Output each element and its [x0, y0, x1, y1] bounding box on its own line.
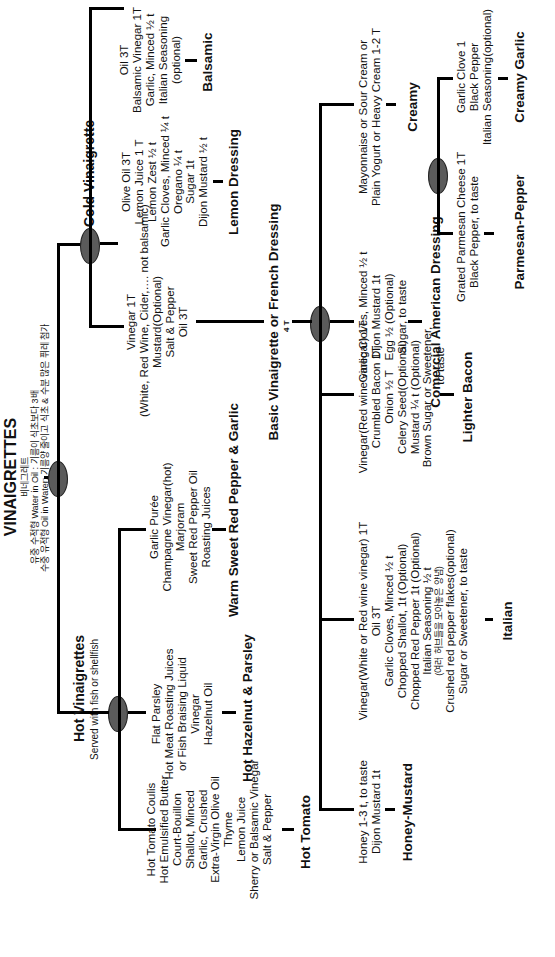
basic-vinaigrette-amount: 4 T [283, 320, 292, 332]
ingredient: Champagne Vinegar(hot) [161, 457, 174, 597]
ingredient: Black Pepper [468, 7, 481, 147]
ingredient: (White, Red Wine, Cider,…. not balsamic) [138, 227, 151, 417]
connector [212, 529, 226, 532]
ingredient: Crushed red pepper flakes(optional) [444, 501, 457, 741]
ingredient: Mustard(Optional) [151, 227, 164, 417]
connector [118, 529, 146, 532]
creamy-label: Creamy [405, 72, 420, 142]
ingredient: Egg ½ (Optional) [383, 247, 396, 387]
connector-root-spine [57, 244, 60, 714]
ingredient: Marjoram [174, 457, 187, 597]
ingredient: Lemon Juice 1 T [133, 117, 146, 247]
connector [213, 181, 223, 184]
ingredient: Salt & Pepper [164, 227, 177, 417]
connector [319, 619, 354, 622]
ingredient: Italian Seasoning [157, 1, 170, 119]
lemon-dressing-ingredients: Olive Oil 3T Lemon Juice 1 T Lemon Zest … [120, 117, 210, 247]
ingredient: or Fish Braising Liquid [176, 639, 189, 789]
basic-vinaigrette-ingredients: Vinegar 1T (White, Red Wine, Cider,…. no… [125, 227, 189, 417]
ingredient: Salt & Pepper [261, 757, 274, 902]
american-dressing-name: Comercial American Dressing [428, 212, 443, 412]
connector [330, 321, 354, 324]
ingredient: Oil 3T [177, 227, 190, 417]
connector [185, 60, 197, 63]
ingredient: Black Pepper, to taste [468, 162, 481, 302]
hot-tomato-name: Hot Tomato [298, 782, 313, 882]
connector [282, 829, 294, 832]
ingredient: Oil 3T [118, 1, 131, 119]
lighter-bacon-name: Lighter Bacon [460, 342, 475, 452]
ingredient: Garlic Cloves, Minced ¼ t [159, 117, 172, 247]
ingredient: Mustard ¼ t (Optional) [409, 307, 422, 487]
ingredient: Flat Parsley [150, 639, 163, 789]
hot-vinaigrettes-sublabel: Served with fish or shellfish [89, 639, 100, 760]
connector [319, 809, 354, 812]
ingredient: Vinegar 1T [125, 227, 138, 417]
ingredient: Sugar or Sweetener, to taste [457, 501, 470, 741]
connector [437, 78, 453, 81]
ingredient: Sugar, to taste [396, 247, 409, 387]
american-dressing-ingredients: Garlic Cloves, Minced ½ t Dijon Mustard … [357, 247, 409, 387]
connector [292, 321, 312, 324]
ingredient: Thyme [222, 757, 235, 902]
ingredient: Dijon Mustard 1t [370, 737, 383, 887]
connector [83, 712, 109, 715]
ingredient: Vinegar [189, 639, 202, 789]
creamy-base-ingredients: Mayonnaise or Sour Cream or Plain Yogurt… [357, 17, 383, 217]
ingredient: Hazelnut Oil [202, 639, 215, 789]
connector-creamy-spine [437, 78, 440, 235]
ingredient: Plain Yogurt or Heavy Cream 1-2 T [370, 17, 383, 217]
connector [498, 78, 508, 81]
ingredient: Chopped Red Pepper 1t (Optional) [409, 501, 422, 741]
ingredient: Italian Seasoning(optional) [481, 7, 494, 147]
ingredient: Balsamic Vinegar 1T [131, 1, 144, 119]
hot-vinaigrettes-label: Hot Vinaigrettes [72, 635, 88, 742]
ingredient: Lemon Zest ½ t [146, 117, 159, 247]
connector [437, 233, 453, 236]
ingredient: Grated Parmesan Cheese 1T [455, 162, 468, 302]
ingredient: Dijon Mustard ½ t [197, 117, 210, 247]
ingredient: (optional) [170, 1, 183, 119]
ingredient: Dijon Mustard 1t [370, 247, 383, 387]
ingredient: Olive Oil 3T [120, 117, 133, 247]
balsamic-ingredients: Oil 3T Balsamic Vinegar 1T Garlic, Mince… [118, 1, 182, 119]
connector [484, 233, 494, 236]
basic-vinaigrette-name: Basic Vinaigrette or French Dressing [266, 187, 281, 457]
italian-name: Italian [500, 581, 515, 661]
vinaigrette-tree-diagram: VINAIGRETTES 비네그레트 유중 수적형 Water in Oil :… [0, 0, 555, 957]
lemon-dressing-name: Lemon Dressing [226, 117, 241, 247]
diagram-title: VINAIGRETTES [2, 382, 20, 572]
diagram-title-korean: 비네그레트 [20, 382, 30, 572]
honey-mustard-ingredients: Honey 1-3 t, to taste Dijon Mustard 1t [357, 737, 383, 887]
connector [385, 809, 395, 812]
ingredient: Sweet Red Pepper Oil [187, 457, 200, 597]
connector-basic-spine [319, 104, 322, 811]
connector [319, 104, 354, 107]
connector [408, 321, 422, 324]
ingredient: Chopped Shallot, 1t (Optional) [396, 501, 409, 741]
connector-hot-spine [118, 529, 121, 831]
honey-mustard-name: Honey-Mustard [400, 747, 415, 877]
connector [100, 243, 118, 246]
creamy-garlic-ingredients: Garlic Clove 1 Black Pepper Italian Seas… [455, 7, 494, 147]
connector [485, 619, 493, 622]
connector-cold-spine [89, 8, 92, 328]
ingredient: (여러 허브들을 모아놓은 양념) [434, 501, 444, 741]
ingredient: Vinegar(White or Red wine vinegar) 1T [357, 501, 370, 741]
italian-ingredients: Vinegar(White or Red wine vinegar) 1T Oi… [357, 501, 470, 741]
ingredient: Sugar 1t [184, 117, 197, 247]
ingredient: Garlic Cloves, Minced ½ t [383, 501, 396, 741]
ingredient: Honey 1-3 t, to taste [357, 737, 370, 887]
ingredient: Garlic Cloves, Minced ½ t [357, 247, 370, 387]
connector [222, 712, 236, 715]
hot-hazelnut-ingredients: Flat Parsley Hot Meat Roasting Juices or… [150, 639, 214, 789]
connector [386, 104, 396, 107]
ingredient: Oil 3T [370, 501, 383, 741]
balsamic-name: Balsamic [200, 17, 215, 107]
ingredient: Hot Meat Roasting Juices [163, 639, 176, 789]
parmesan-pepper-name: Parmesan-Pepper [512, 167, 527, 297]
warm-red-pepper-name: Warm Sweet Red Pepper & Garlic [226, 437, 241, 617]
connector [128, 712, 146, 715]
connector [196, 321, 264, 324]
title-block: VINAIGRETTES 비네그레트 유중 수적형 Water in Oil :… [2, 382, 50, 572]
